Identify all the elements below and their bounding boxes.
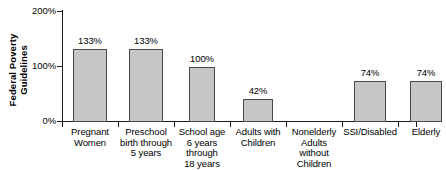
x-label-preschool: Preschool birth through 5 years <box>114 127 178 159</box>
x-label-line: Preschool <box>114 127 178 138</box>
bar-group-nonelderly-adults <box>286 10 342 122</box>
bar-group-pregnant-women: 133% <box>62 10 118 122</box>
y-axis-title-line-1: Federal Poverty <box>7 34 19 107</box>
x-axis-category-labels: Pregnant Women Preschool birth through 5… <box>62 127 417 166</box>
bar-value-preschool: 133% <box>134 36 158 46</box>
bar-group-adults-with-children: 42% <box>230 10 286 122</box>
x-label-adults-with-children: Adults with Children <box>228 127 288 148</box>
bar-adults-with-children[interactable] <box>243 99 273 122</box>
y-axis-tick-labels: 200% 100% 0% <box>22 0 56 166</box>
x-label-line: Children <box>228 138 288 149</box>
bar-value-ssi-disabled: 74% <box>361 68 380 78</box>
x-label-elderly: Elderly <box>396 127 446 138</box>
x-label-line: Adults with <box>228 127 288 138</box>
bar-group-preschool: 133% <box>118 10 174 122</box>
bar-elderly[interactable] <box>410 81 442 122</box>
x-label-school-age: School age 6 years through 18 years <box>172 127 232 169</box>
bar-chart: Federal Poverty Guidelines 200% 100% 0% … <box>0 0 425 166</box>
x-label-ssi-disabled: SSI/Disabled <box>338 127 402 138</box>
y-tick-label-200: 200% <box>22 6 56 16</box>
x-label-line: School age <box>172 127 232 138</box>
bar-school-age[interactable] <box>189 67 215 122</box>
bar-value-school-age: 100% <box>190 54 214 64</box>
x-label-line: through <box>172 148 232 159</box>
x-label-line: SSI/Disabled <box>338 127 402 138</box>
x-label-line: Elderly <box>396 127 446 138</box>
x-label-line: Nonelderly <box>284 127 344 138</box>
bar-preschool[interactable] <box>129 49 163 122</box>
bar-value-elderly: 74% <box>417 68 436 78</box>
x-label-line: Pregnant <box>60 127 120 138</box>
plot-area: 133% 133% 100% 42% 74% 74% <box>62 10 417 122</box>
x-label-line: Children <box>284 159 344 170</box>
y-tick-label-0: 0% <box>22 116 56 126</box>
bar-pregnant-women[interactable] <box>73 49 107 122</box>
bar-value-pregnant-women: 133% <box>78 36 102 46</box>
bar-value-adults-with-children: 42% <box>249 86 268 96</box>
y-tick-label-100: 100% <box>22 61 56 71</box>
bar-group-ssi-disabled: 74% <box>342 10 398 122</box>
x-label-line: without <box>284 148 344 159</box>
x-label-pregnant-women: Pregnant Women <box>60 127 120 148</box>
bar-ssi-disabled[interactable] <box>354 81 386 122</box>
x-label-line: 18 years <box>172 159 232 170</box>
x-label-line: 5 years <box>114 148 178 159</box>
bar-group-school-age: 100% <box>174 10 230 122</box>
x-label-nonelderly-adults: Nonelderly Adults without Children <box>284 127 344 169</box>
x-label-line: Women <box>60 138 120 149</box>
bar-group-elderly: 74% <box>398 10 446 122</box>
